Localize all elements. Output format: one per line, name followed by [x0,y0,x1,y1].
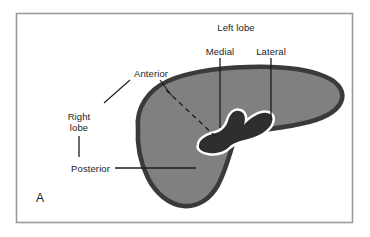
label-right-lobe-line1: Right [68,111,91,122]
label-posterior: Posterior [71,163,110,174]
label-medial: Medial [206,46,235,57]
label-anterior: Anterior [134,68,168,79]
label-left-lobe: Left lobe [217,22,254,33]
label-right-lobe-line2: lobe [68,122,91,133]
label-right-lobe: Right lobe [68,111,91,133]
liver-diagram-canvas [0,0,370,237]
label-lateral: Lateral [256,46,286,57]
panel-letter-a: A [36,191,44,205]
liver-anatomy-figure: Left lobe Medial Lateral Anterior Right … [0,0,370,237]
